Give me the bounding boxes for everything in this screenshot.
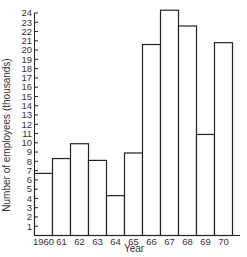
x-tick-label: 63 bbox=[92, 236, 103, 247]
bar-69 bbox=[197, 134, 215, 235]
x-tick-label: 61 bbox=[56, 236, 67, 247]
bar-67 bbox=[161, 10, 179, 235]
x-tick-label: 70 bbox=[218, 236, 229, 247]
x-axis-title: Year bbox=[124, 243, 145, 254]
bar-63 bbox=[89, 160, 107, 235]
bar-61 bbox=[53, 159, 71, 236]
x-tick-label: 1960 bbox=[33, 236, 54, 247]
x-tick-label: 66 bbox=[146, 236, 157, 247]
x-tick-label: 62 bbox=[74, 236, 85, 247]
y-tick-label: 24 bbox=[21, 7, 32, 18]
x-tick-label: 68 bbox=[182, 236, 193, 247]
x-tick-label: 69 bbox=[200, 236, 211, 247]
bar-65 bbox=[125, 153, 143, 236]
bar-chart: 123456789101112131415161718192021222324 … bbox=[0, 0, 247, 257]
bar-64 bbox=[107, 196, 125, 236]
x-tick-label: 67 bbox=[164, 236, 175, 247]
bar-70 bbox=[215, 43, 233, 236]
bar-66 bbox=[143, 45, 161, 236]
bars-group bbox=[35, 10, 233, 235]
y-axis-title: Number of employees (thousands) bbox=[1, 58, 12, 211]
x-tick-label: 64 bbox=[110, 236, 121, 247]
bar-68 bbox=[179, 26, 197, 236]
bar-62 bbox=[71, 144, 89, 236]
